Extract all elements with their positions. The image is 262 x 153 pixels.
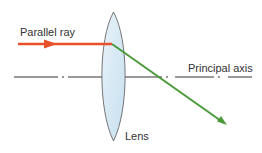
refracted-ray-line [112,44,224,123]
principal-axis-label: Principal axis [188,62,253,74]
refracted-ray-arrow-icon [217,116,227,125]
convex-lens-shape [102,12,125,141]
diagram-canvas: Parallel ray Principal axis Lens [0,0,262,153]
parallel-ray-label: Parallel ray [20,26,75,38]
lens-label: Lens [125,130,149,142]
parallel-ray-arrow-icon [44,40,57,49]
